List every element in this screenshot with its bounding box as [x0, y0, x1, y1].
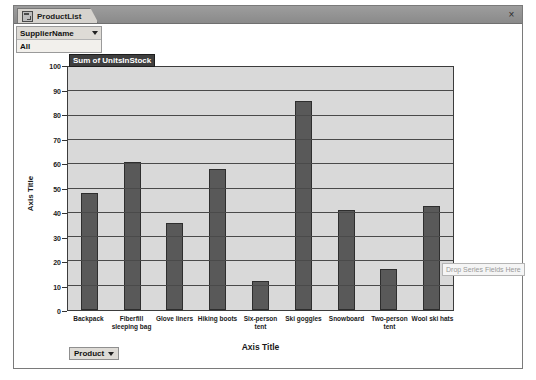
- value-field-caption[interactable]: Sum of UnitsInStock: [69, 54, 155, 67]
- x-axis-tick-label: Backpack: [67, 313, 110, 341]
- gridline: [68, 163, 453, 164]
- filter-field-suppliername[interactable]: SupplierName All: [16, 26, 102, 53]
- x-axis-tick-label: Wool ski hats: [411, 313, 454, 341]
- y-axis-tick-label: 0: [57, 308, 61, 315]
- x-axis-tick-label: Two-person tent: [368, 313, 411, 341]
- x-axis-tick-label: Fiberfill sleeping bag: [110, 313, 153, 341]
- bar[interactable]: [423, 206, 440, 310]
- bar-series: [68, 67, 453, 310]
- close-icon[interactable]: ×: [506, 9, 517, 20]
- bar-slot: [239, 67, 282, 310]
- y-axis-tick-label: 30: [53, 234, 61, 241]
- bar-slot: [196, 67, 239, 310]
- gridline: [68, 139, 453, 140]
- y-axis-tick-label: 10: [53, 283, 61, 290]
- filter-selected-value[interactable]: All: [17, 40, 101, 52]
- x-axis-tick-label: Snowboard: [325, 313, 368, 341]
- tab-label: ProductList: [37, 12, 81, 21]
- pivotchart-body: SupplierName All Axis Title 010203040506…: [14, 24, 522, 368]
- y-axis-tick-mark: [62, 311, 67, 312]
- y-axis-tick-label: 70: [53, 136, 61, 143]
- y-axis-tick-label: 80: [53, 112, 61, 119]
- gridline: [68, 236, 453, 237]
- plot-area[interactable]: [67, 66, 454, 311]
- y-axis-tick-label: 50: [53, 185, 61, 192]
- filter-field-header[interactable]: SupplierName: [17, 27, 101, 40]
- gridline: [68, 260, 453, 261]
- gridline: [68, 115, 453, 116]
- x-axis-tick-labels: BackpackFiberfill sleeping bagGlove line…: [67, 313, 454, 341]
- form-datasheet-icon: [22, 11, 33, 22]
- category-field-product[interactable]: Product: [69, 347, 119, 360]
- chevron-down-icon[interactable]: [108, 352, 114, 356]
- chart-area: Axis Title 0102030405060708090100 Sum of…: [14, 52, 522, 334]
- y-axis-tick-label: 90: [53, 87, 61, 94]
- y-axis-tick-label: 20: [53, 259, 61, 266]
- drop-series-fields-zone[interactable]: Drop Series Fields Here: [442, 263, 525, 276]
- productlist-window: ProductList × SupplierName All Axis Titl…: [13, 5, 523, 369]
- gridline: [68, 188, 453, 189]
- bar-slot: [154, 67, 197, 310]
- bar[interactable]: [295, 101, 312, 310]
- x-axis-tick-label: Six-person tent: [239, 313, 282, 341]
- bar-slot: [111, 67, 154, 310]
- plot-wrapper: [67, 66, 454, 311]
- pivotchart-screen: ProductList × SupplierName All Axis Titl…: [0, 0, 536, 380]
- y-axis-tick-label: 40: [53, 210, 61, 217]
- bar-slot: [325, 67, 368, 310]
- gridline: [68, 90, 453, 91]
- window-titlebar: ProductList ×: [14, 6, 522, 24]
- category-field-label: Product: [74, 349, 104, 358]
- x-axis-tick-label: Hiking boots: [196, 313, 239, 341]
- x-axis-tick-label: Ski goggles: [282, 313, 325, 341]
- gridline: [68, 285, 453, 286]
- y-axis-ticks: 0102030405060708090100: [14, 66, 67, 311]
- chevron-down-icon[interactable]: [92, 31, 98, 35]
- x-axis-title[interactable]: Axis Title: [67, 342, 454, 352]
- filter-field-label: SupplierName: [20, 29, 74, 38]
- tab-productlist[interactable]: ProductList: [17, 8, 98, 23]
- bar-slot: [367, 67, 410, 310]
- bar-slot: [282, 67, 325, 310]
- y-axis-tick-label: 60: [53, 161, 61, 168]
- bar[interactable]: [209, 169, 226, 310]
- x-axis-tick-label: Glove liners: [153, 313, 196, 341]
- y-axis-tick-label: 100: [49, 63, 61, 70]
- gridline: [68, 212, 453, 213]
- bar-slot: [68, 67, 111, 310]
- bar[interactable]: [380, 269, 397, 310]
